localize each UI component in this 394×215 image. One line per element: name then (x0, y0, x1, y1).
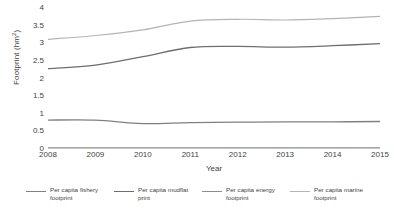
series-line (48, 16, 380, 39)
x-axis-title: Year (48, 164, 380, 173)
x-axis-tick: 2014 (313, 150, 353, 159)
series-line (48, 44, 380, 69)
legend-label: Per capita fisheryfootprint (50, 186, 98, 201)
series-line (48, 120, 380, 124)
legend-line-icon (202, 188, 222, 195)
x-axis-tick: 2009 (75, 150, 115, 159)
y-axis-tick: 1.5 (20, 92, 44, 100)
y-axis-tick: 4 (20, 4, 44, 12)
y-axis-title-superscript: 2 (11, 33, 17, 36)
legend-item[interactable]: Per capita marinefootprint (290, 186, 378, 201)
legend-label: Per capita energyfootprint (226, 186, 275, 201)
series-lines (48, 16, 380, 147)
legend-line-icon (114, 188, 134, 195)
legend-item[interactable]: Per capita mudflatprint (114, 186, 202, 201)
x-axis-tick: 2010 (123, 150, 163, 159)
x-axis-tick: 2012 (218, 150, 258, 159)
x-axis-tick: 2015 (360, 150, 394, 159)
x-axis-tick-labels: 20082009201020112012201320142015 (48, 150, 380, 162)
plot-area (48, 8, 380, 149)
legend-item[interactable]: Per capita energyfootprint (202, 186, 290, 201)
chart-legend: Per capita fisheryfootprintPer capita mu… (26, 186, 378, 208)
y-axis-tick: 0.5 (20, 127, 44, 135)
legend-label: Per capita marinefootprint (314, 186, 363, 201)
x-axis-tick: 2008 (28, 150, 68, 159)
legend-line-icon (290, 188, 310, 195)
y-axis-tick-labels: 00.511.522.533.54 (18, 0, 44, 160)
y-axis-tick: 2 (20, 75, 44, 83)
y-axis-tick: 1 (20, 110, 44, 118)
series-canvas (48, 8, 380, 149)
x-axis-tick: 2011 (170, 150, 210, 159)
x-axis-tick: 2013 (265, 150, 305, 159)
y-axis-tick: 2.5 (20, 57, 44, 65)
y-axis-tick: 3 (20, 39, 44, 47)
legend-item[interactable]: Per capita fisheryfootprint (26, 186, 114, 201)
y-axis-tick: 3.5 (20, 22, 44, 30)
legend-label: Per capita mudflatprint (138, 186, 188, 201)
legend-line-icon (26, 188, 46, 195)
